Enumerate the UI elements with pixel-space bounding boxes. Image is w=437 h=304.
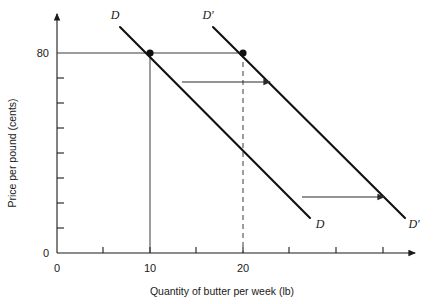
curve-label-d-prime-bottom: D' (407, 217, 420, 231)
y-tick-label-80: 80 (37, 47, 49, 59)
chart-canvas: D D' D D' 80 0 0 10 20 Quantity of butte… (0, 0, 437, 304)
x-tick-label-10: 10 (144, 262, 156, 274)
curve-label-d-bottom: D (315, 217, 325, 231)
demand-shift-chart-figure: D D' D D' 80 0 0 10 20 Quantity of butte… (0, 0, 437, 304)
reference-lines-group (57, 53, 243, 253)
y-axis-ticks (57, 78, 64, 228)
x-tick-label-20: 20 (237, 262, 249, 274)
y-axis-title: Price per pound (cents) (6, 98, 18, 207)
x-tick-label-0: 0 (54, 262, 60, 274)
x-axis-title: Quantity of butter per week (lb) (150, 285, 294, 297)
curve-label-d-prime-top: D' (201, 8, 214, 22)
curve-label-d-top: D (110, 8, 120, 22)
point-dot-q10-p80 (146, 49, 153, 56)
point-dot-q20-p80 (239, 49, 246, 56)
y-tick-label-0: 0 (43, 247, 49, 259)
